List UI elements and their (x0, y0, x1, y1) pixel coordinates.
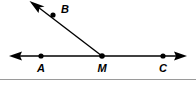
point-label-B: B (61, 3, 69, 15)
ray-MB (36, 6, 102, 57)
point-dot-B (50, 12, 55, 17)
point-dot-C (160, 53, 165, 58)
ray-arrowhead-icon (30, 1, 45, 13)
point-dot-M (99, 53, 105, 59)
geometry-canvas: A B M C (0, 0, 196, 85)
point-label-C: C (159, 62, 168, 74)
point-label-M: M (97, 62, 107, 74)
geometry-figure: A B M C (0, 0, 196, 85)
point-label-A: A (36, 62, 45, 74)
point-dot-A (38, 53, 43, 58)
